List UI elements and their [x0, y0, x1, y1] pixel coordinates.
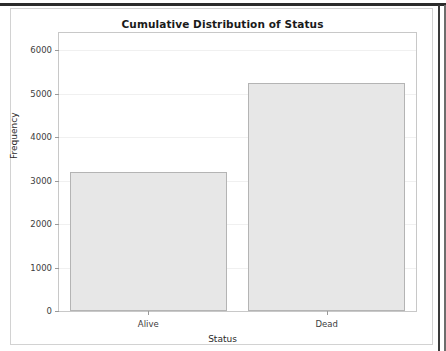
y-tick-mark — [55, 224, 59, 225]
y-tick-mark — [55, 268, 59, 269]
bar-alive[interactable] — [70, 172, 227, 311]
window-chrome-top-band — [0, 3, 446, 6]
x-tick-mark — [148, 311, 149, 315]
chart-title: Cumulative Distribution of Status — [11, 18, 434, 30]
bar-dead[interactable] — [248, 83, 405, 311]
x-tick-label-dead: Dead — [316, 319, 338, 329]
chart-figure-panel: Cumulative Distribution of Status Freque… — [10, 8, 433, 345]
window-chrome-right-edge — [438, 5, 440, 351]
y-tick-label: 3000 — [30, 176, 52, 186]
y-tick-label: 0 — [47, 306, 52, 316]
y-tick-mark — [55, 50, 59, 51]
x-axis-title: Status — [11, 334, 434, 344]
x-tick-mark — [327, 311, 328, 315]
y-tick-mark — [55, 137, 59, 138]
y-axis-title: Frequency — [9, 113, 19, 160]
gridline — [59, 50, 416, 51]
plot-area: 0100020003000400050006000 AliveDead — [58, 32, 417, 312]
y-tick-label: 2000 — [30, 219, 52, 229]
y-tick-mark — [55, 181, 59, 182]
y-tick-label: 6000 — [30, 45, 52, 55]
y-tick-label: 4000 — [30, 132, 52, 142]
x-tick-label-alive: Alive — [138, 319, 159, 329]
y-tick-mark — [55, 94, 59, 95]
y-tick-label: 5000 — [30, 89, 52, 99]
y-tick-label: 1000 — [30, 263, 52, 273]
y-tick-mark — [55, 311, 59, 312]
